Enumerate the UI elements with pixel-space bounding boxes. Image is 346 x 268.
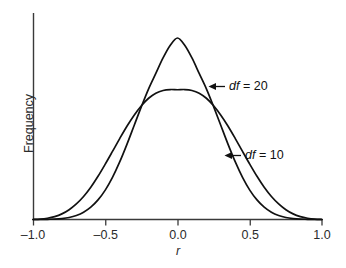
series-annotation-df-10-symbol: df: [245, 148, 255, 162]
series-annotation-df-10-value: = 10: [259, 148, 284, 162]
series-annotation-df-10: df = 10: [245, 148, 284, 162]
chart-figure: –1.0 –0.5 0.0 0.5 1.0 r Frequency df = 2…: [0, 0, 346, 268]
series-annotation-df-20-symbol: df: [229, 79, 239, 93]
series-annotation-df-20: df = 20: [229, 79, 268, 93]
curve-df-20: [33, 38, 322, 220]
x-tick-label-2: 0.0: [169, 228, 187, 242]
annotation-arrow-df-20: [209, 83, 226, 90]
x-tick-label-4: 1.0: [313, 228, 331, 242]
series-annotation-df-20-value: = 20: [243, 79, 268, 93]
x-tick-label-3: 0.5: [241, 228, 259, 242]
y-axis-title: Frequency: [22, 94, 36, 153]
x-axis-title: r: [176, 244, 180, 258]
x-tick-label-0: –1.0: [21, 228, 46, 242]
x-tick-label-1: –0.5: [93, 228, 118, 242]
x-axis-ticks: [34, 220, 323, 226]
